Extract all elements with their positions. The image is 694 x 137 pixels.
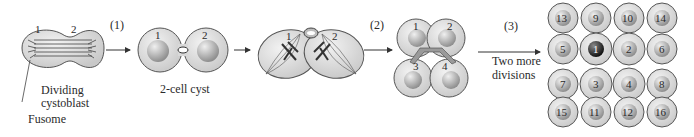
cell-label: 2 <box>332 30 338 43</box>
cell-label: 13 <box>556 12 567 25</box>
fusome-label: Fusome <box>28 113 66 126</box>
cell-label: 16 <box>655 106 666 119</box>
cell-label: 14 <box>655 12 666 25</box>
two-cell-cyst <box>138 28 228 72</box>
cell-label: 1 <box>286 30 292 43</box>
cell-label: 4 <box>626 78 632 91</box>
cell-label: 15 <box>556 106 567 119</box>
cell-label: 8 <box>659 78 665 91</box>
step-label: (3) <box>504 20 518 33</box>
four-cell-cyst <box>394 19 468 97</box>
cell-label: 12 <box>622 106 633 119</box>
cell-label: 4 <box>442 60 448 73</box>
step-caption-line2: divisions <box>492 69 535 82</box>
cell-label: 3 <box>593 78 599 91</box>
cell-label: 6 <box>659 43 665 56</box>
cell-label: 2 <box>202 29 208 42</box>
step-label: (2) <box>370 19 384 32</box>
stage-label: 2-cell cyst <box>160 83 210 96</box>
cell-label: 1 <box>413 20 419 33</box>
cell-label: 2 <box>71 23 77 36</box>
dividing-two-cell <box>254 24 369 83</box>
stage-label-line2: cystoblast <box>41 97 89 110</box>
step-caption-line1: Two more <box>492 55 541 68</box>
cell-label: 1 <box>155 29 161 42</box>
fusome-pointer <box>22 60 30 102</box>
cell-label: 1 <box>35 23 41 36</box>
cell-label: 2 <box>626 43 632 56</box>
cell-label: 7 <box>560 78 566 91</box>
cell-label: 1 <box>593 43 599 56</box>
step-label: (1) <box>110 19 124 32</box>
cell-label: 2 <box>447 20 453 33</box>
cell-label: 3 <box>413 60 419 73</box>
cell-label: 11 <box>589 106 600 119</box>
cell-label: 5 <box>560 43 566 56</box>
cell-label: 9 <box>593 12 599 25</box>
cell-label: 10 <box>622 12 633 25</box>
